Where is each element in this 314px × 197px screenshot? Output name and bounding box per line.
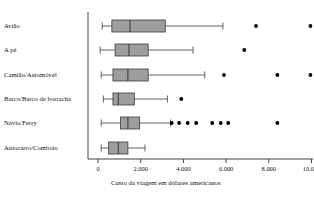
outlier-point [254,24,258,28]
outlier-point [222,73,226,77]
box-plot-series [103,93,183,105]
x-axis-tick-label: 10.000 [303,166,314,172]
outlier-point [186,121,190,125]
outlier-point [275,73,279,77]
x-axis-title: Custo da viagem em dólares americanos [111,180,221,187]
box-plot-chart: 02.0004.0006.0008.00010.000Custo da viag… [0,0,314,197]
x-axis-tick-label: 2.000 [133,166,147,172]
outlier-point [226,121,230,125]
box-plot-series [101,142,145,154]
box-iqr [120,117,139,129]
box-plot-series [100,44,246,56]
box-iqr [113,69,148,81]
box-iqr [113,93,134,105]
outlier-point [309,73,313,77]
x-axis-tick-label: 0 [96,166,99,172]
outlier-point [194,121,198,125]
box-plot-series [102,20,314,32]
box-iqr [115,44,148,56]
outlier-point [177,121,181,125]
box-plot-series [101,117,279,129]
y-axis-category-label: Avião [4,23,20,30]
outlier-point [275,121,279,125]
outlier-point [179,97,183,101]
box-plot-series [101,69,312,81]
y-axis-category-label: Camião/Automóvel [4,72,57,79]
outlier-point [219,121,223,125]
outlier-point [242,48,246,52]
y-axis-category-label: A pé [4,47,16,54]
outlier-point [210,121,214,125]
y-axis-category-label: Barco/Barco de borracha [4,96,71,103]
y-axis-category-label: Navio/Ferry [4,120,37,127]
x-axis-tick-label: 6.000 [219,166,233,172]
x-axis-tick-label: 4.000 [176,166,190,172]
box-iqr [112,20,165,32]
outlier-point [309,24,313,28]
y-axis-category-label: Autocarro/Comboio [4,145,58,152]
x-axis-tick-label: 8.000 [262,166,276,172]
outlier-point [170,121,174,125]
